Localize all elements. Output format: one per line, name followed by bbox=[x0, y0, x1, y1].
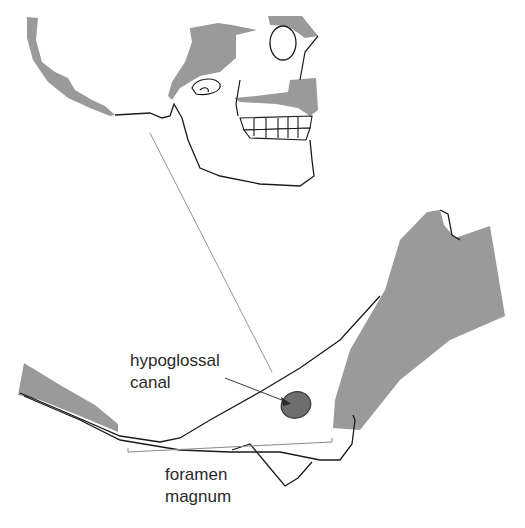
skull-diagram bbox=[0, 0, 525, 528]
hypoglossal-canal-label: hypoglossal canal bbox=[130, 350, 220, 394]
label-line-1: hypoglossal bbox=[130, 350, 220, 372]
label-line-2: canal bbox=[130, 372, 220, 394]
occipital-bone-shade bbox=[27, 17, 115, 116]
zoom-leader-line bbox=[150, 133, 272, 372]
ear-canal-outline bbox=[192, 79, 220, 94]
maxilla-bone-shade bbox=[234, 78, 318, 116]
condyle-outline bbox=[232, 444, 312, 486]
teeth bbox=[240, 116, 312, 140]
label-line-1: foramen bbox=[165, 464, 231, 486]
foramen-magnum-label: foramen magnum bbox=[165, 464, 231, 508]
foramen-magnum-bracket bbox=[128, 438, 332, 452]
occipital-detail-shade bbox=[18, 363, 118, 432]
orbit-outline bbox=[270, 26, 296, 60]
label-line-2: magnum bbox=[165, 486, 231, 508]
